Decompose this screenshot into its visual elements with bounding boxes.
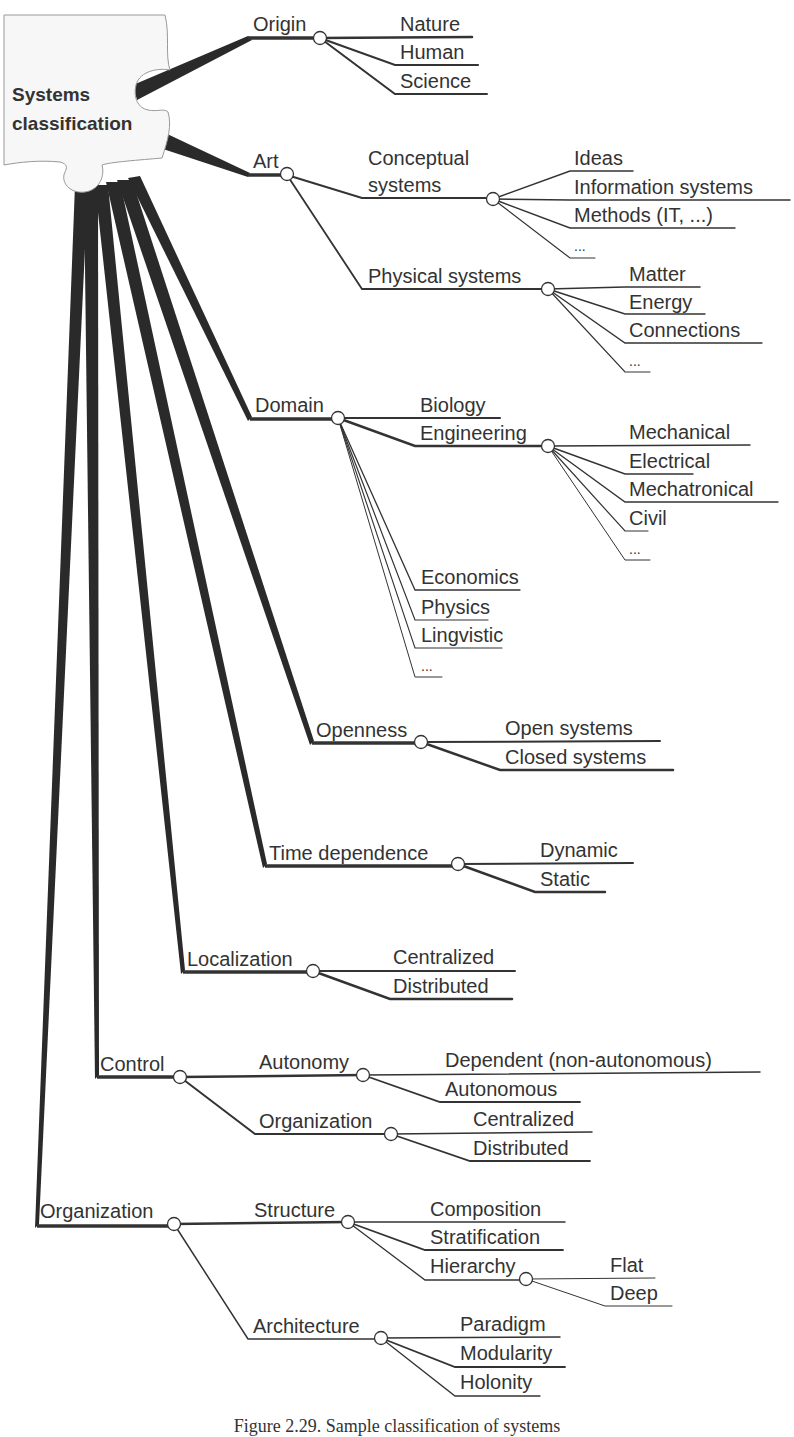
node-physical xyxy=(542,283,555,296)
node-hierarchy xyxy=(520,1273,533,1286)
leaf-ctrl-centralized: Centralized xyxy=(473,1109,574,1129)
category-domain: Domain xyxy=(255,395,324,415)
leaf-mechatronical: Mechatronical xyxy=(629,479,754,499)
leaf-biology: Biology xyxy=(420,395,486,415)
node-autonomy xyxy=(357,1069,370,1082)
leaf-civil: Civil xyxy=(629,508,667,528)
category-art: Art xyxy=(253,151,279,171)
leaf-mechanical: Mechanical xyxy=(629,422,730,442)
category-origin: Origin xyxy=(253,14,306,34)
node-control xyxy=(174,1071,187,1084)
leaf-loc-centralized: Centralized xyxy=(393,947,494,967)
subcategory-physical: Physical systems xyxy=(368,266,521,286)
leaf-paradigm: Paradigm xyxy=(460,1314,546,1334)
node-structure xyxy=(342,1216,355,1229)
root-title-line1: Systems xyxy=(12,80,132,109)
leaf-lingvistic: Lingvistic xyxy=(421,625,503,645)
leaf-methods: Methods (IT, ...) xyxy=(574,205,713,225)
subcategory-structure: Structure xyxy=(254,1200,335,1220)
leaf-nature: Nature xyxy=(400,14,460,34)
leaf-electrical: Electrical xyxy=(629,451,710,471)
subcategory-control-organization: Organization xyxy=(259,1111,372,1131)
connector-lines xyxy=(174,37,790,1396)
root-title: Systems classification xyxy=(12,80,132,138)
trunk-lines xyxy=(35,36,314,1228)
leaf-dependent: Dependent (non-autonomous) xyxy=(445,1050,712,1070)
category-organization: Organization xyxy=(40,1201,153,1221)
subcategory-conceptual-line2: systems xyxy=(368,175,441,195)
leaf-economics: Economics xyxy=(421,567,519,587)
subcategory-architecture: Architecture xyxy=(253,1316,360,1336)
leaf-energy: Energy xyxy=(629,292,692,312)
node-domain xyxy=(332,412,345,425)
leaf-physics: Physics xyxy=(421,597,490,617)
subcategory-engineering: Engineering xyxy=(420,423,527,443)
node-time xyxy=(452,858,465,871)
leaf-open-systems: Open systems xyxy=(505,718,633,738)
leaf-autonomous: Autonomous xyxy=(445,1079,557,1099)
leaf-information-systems: Information systems xyxy=(574,177,753,197)
subcategory-hierarchy: Hierarchy xyxy=(430,1256,516,1276)
leaf-conceptual-more: ... xyxy=(574,236,586,256)
category-time-dependence: Time dependence xyxy=(269,843,428,863)
category-localization: Localization xyxy=(187,949,293,969)
leaf-ctrl-distributed: Distributed xyxy=(473,1138,569,1158)
leaf-engineering-more: ... xyxy=(629,539,641,559)
category-openness: Openness xyxy=(316,720,407,740)
leaf-physical-more: ... xyxy=(629,351,641,371)
node-engineering xyxy=(542,440,555,453)
node-origin xyxy=(314,32,327,45)
leaf-holonity: Holonity xyxy=(460,1372,532,1392)
leaf-flat: Flat xyxy=(610,1255,643,1275)
node-localization xyxy=(307,965,320,978)
leaf-human: Human xyxy=(400,42,464,62)
leaf-static: Static xyxy=(540,869,590,889)
root-title-line2: classification xyxy=(12,109,132,138)
figure-caption: Figure 2.29. Sample classification of sy… xyxy=(0,1416,794,1437)
leaf-dynamic: Dynamic xyxy=(540,840,618,860)
node-conceptual xyxy=(487,193,500,206)
leaf-loc-distributed: Distributed xyxy=(393,976,489,996)
node-organization xyxy=(168,1218,181,1231)
leaf-domain-more: ... xyxy=(421,656,433,676)
subcategory-autonomy: Autonomy xyxy=(259,1052,349,1072)
node-openness xyxy=(415,736,428,749)
subcategory-conceptual-line1: Conceptual xyxy=(368,148,469,168)
node-art xyxy=(281,168,294,181)
leaf-stratification: Stratification xyxy=(430,1227,540,1247)
node-architecture xyxy=(375,1332,388,1345)
leaf-modularity: Modularity xyxy=(460,1343,552,1363)
leaf-closed-systems: Closed systems xyxy=(505,747,646,767)
leaf-ideas: Ideas xyxy=(574,148,623,168)
leaf-connections: Connections xyxy=(629,320,740,340)
leaf-science: Science xyxy=(400,71,471,91)
leaf-matter: Matter xyxy=(629,264,686,284)
node-control-organization xyxy=(385,1128,398,1141)
leaf-composition: Composition xyxy=(430,1199,541,1219)
category-control: Control xyxy=(100,1054,164,1074)
leaf-deep: Deep xyxy=(610,1283,658,1303)
